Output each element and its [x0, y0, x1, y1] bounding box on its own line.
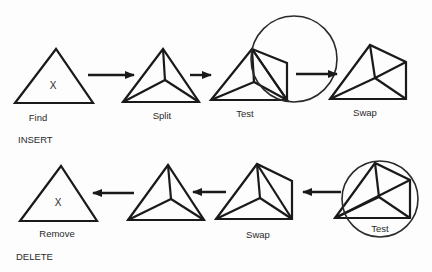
- step-label-swap: Swap: [353, 107, 377, 118]
- delete-test-step: Test: [335, 161, 418, 237]
- insert-find-step: X Find: [15, 49, 93, 123]
- insert-test-step: Test: [211, 16, 337, 119]
- point-x-marker: X: [55, 197, 62, 208]
- circumcircle-icon: [251, 16, 337, 102]
- step-label-split: Split: [153, 110, 172, 121]
- section-label-delete: DELETE: [16, 251, 53, 262]
- step-label-test: Test: [236, 108, 254, 119]
- triangulation-diagram: X Find Split Test Swap INSERT: [0, 0, 432, 272]
- insert-swap-step: Swap: [330, 45, 406, 118]
- triangle-icon: [20, 166, 97, 221]
- step-label-remove: Remove: [39, 228, 74, 239]
- step-label-test: Test: [371, 223, 389, 234]
- point-x-marker: X: [50, 80, 57, 91]
- triangle-icon: [15, 49, 93, 103]
- insert-split-step: Split: [123, 49, 199, 121]
- delete-split-step: [128, 165, 204, 220]
- delete-swap-step: Swap: [216, 164, 292, 240]
- step-label-find: Find: [29, 112, 47, 123]
- section-label-insert: INSERT: [18, 134, 53, 145]
- step-label-swap: Swap: [246, 229, 270, 240]
- delete-remove-step: X Remove: [20, 166, 97, 239]
- test-triangle-icon: [211, 49, 287, 100]
